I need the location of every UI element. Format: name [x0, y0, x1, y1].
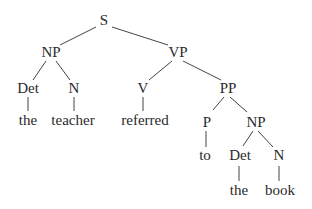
tree-edge [149, 61, 172, 80]
tree-node-label: S [100, 12, 108, 28]
tree-node-label: P [203, 114, 211, 130]
tree-node-label: N [69, 80, 80, 96]
tree-node-label: VP [168, 44, 187, 60]
tree-node-label: Det [229, 147, 251, 163]
tree-node-label: Det [17, 80, 39, 96]
tree-edge [60, 27, 96, 45]
tree-leaf-word: to [199, 147, 211, 163]
tree-node-label: V [138, 80, 149, 96]
tree-node-label: NP [246, 114, 265, 130]
tree-nodes: SNPVPDetNVPPtheteacherreferredPNPtoDetNt… [17, 12, 295, 198]
tree-edge [56, 61, 70, 80]
tree-edge [213, 97, 224, 110]
tree-edge [243, 131, 253, 146]
tree-leaf-word: teacher [51, 112, 94, 128]
tree-svg: SNPVPDetNVPPtheteacherreferredPNPtoDetNt… [0, 0, 312, 209]
tree-node-label: PP [220, 80, 237, 96]
tree-node-label: NP [41, 44, 60, 60]
tree-node-label: N [274, 147, 285, 163]
tree-edge [33, 61, 46, 80]
tree-edge [112, 27, 168, 45]
tree-edge [230, 97, 247, 112]
tree-leaf-word: the [19, 112, 38, 128]
tree-leaf-word: the [230, 182, 249, 198]
syntax-tree-diagram: SNPVPDetNVPPtheteacherreferredPNPtoDetNt… [0, 0, 312, 209]
tree-edge [183, 61, 221, 80]
tree-edge [258, 131, 273, 147]
tree-leaf-word: book [265, 182, 296, 198]
tree-leaf-word: referred [121, 112, 169, 128]
